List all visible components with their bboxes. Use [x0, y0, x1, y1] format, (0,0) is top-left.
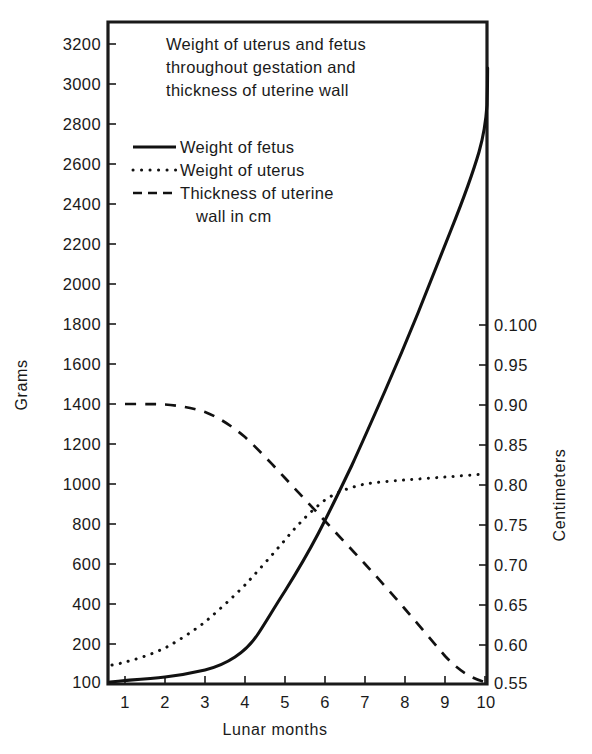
legend-label-fetus: Weight of fetus [180, 138, 294, 156]
left-tick-label: 200 [72, 635, 101, 653]
legend-label-uterus: Weight of uterus [180, 161, 305, 179]
series-line-uterine-wall-thickness [125, 404, 485, 682]
x-tick-label: 7 [360, 693, 370, 711]
left-tick-label: 2000 [63, 275, 101, 293]
x-tick-label: 4 [240, 693, 250, 711]
x-tick-label: 6 [320, 693, 330, 711]
right-tick-label: 0.75 [494, 516, 528, 534]
left-tick-label: 600 [72, 555, 101, 573]
left-tick-label: 2200 [63, 235, 101, 253]
right-axis-ticklabels: 0.100 0.95 0.90 0.85 0.80 0.75 0.70 0.65… [494, 316, 537, 692]
left-tick-label: 100 [72, 673, 101, 691]
left-tick-label: 1200 [63, 435, 101, 453]
x-tick-label: 3 [200, 693, 210, 711]
left-tick-label: 3000 [63, 75, 101, 93]
chart-title-line: throughout gestation and [166, 58, 356, 76]
left-tick-label: 1800 [63, 315, 101, 333]
left-tick-label: 1000 [63, 475, 101, 493]
chart-title-line: thickness of uterine wall [166, 81, 349, 99]
left-tick-label: 2800 [63, 115, 101, 133]
x-tick-label: 1 [120, 693, 130, 711]
x-tick-label: 8 [400, 693, 410, 711]
right-tick-label: 0.70 [494, 556, 528, 574]
x-axis-ticklabels: 1 2 3 4 5 6 7 8 9 10 [120, 693, 495, 711]
left-tick-label: 800 [72, 515, 101, 533]
left-tick-label: 2600 [63, 155, 101, 173]
x-tick-label: 10 [476, 693, 495, 711]
right-tick-label: 0.100 [494, 316, 537, 334]
right-axis-title: Centimeters [551, 449, 568, 542]
x-tick-label: 9 [440, 693, 450, 711]
x-tick-label: 2 [160, 693, 170, 711]
chart-title: Weight of uterus and fetus throughout ge… [166, 35, 366, 99]
left-tick-label: 1400 [63, 395, 101, 413]
right-tick-label: 0.95 [494, 356, 528, 374]
left-axis-ticklabels: 3200 3000 2800 2600 2400 2200 2000 1800 … [63, 35, 101, 691]
left-tick-label: 3200 [63, 35, 101, 53]
legend-label-wall: Thickness of uterine [180, 184, 334, 202]
x-axis-title: Lunar months [222, 721, 327, 738]
chart-legend: Weight of fetus Weight of uterus Thickne… [133, 138, 334, 225]
legend-label-wall-cont: wall in cm [195, 207, 271, 225]
left-axis-title: Grams [13, 360, 30, 411]
left-tick-label: 1600 [63, 355, 101, 373]
x-tick-label: 5 [280, 693, 290, 711]
left-tick-label: 2400 [63, 195, 101, 213]
right-tick-label: 0.65 [494, 596, 528, 614]
left-tick-label: 400 [72, 595, 101, 613]
right-tick-label: 0.85 [494, 436, 528, 454]
chart-figure: 3200 3000 2800 2600 2400 2200 2000 1800 … [0, 0, 592, 754]
right-tick-label: 0.55 [494, 674, 528, 692]
chart-canvas: 3200 3000 2800 2600 2400 2200 2000 1800 … [0, 0, 592, 754]
right-tick-label: 0.80 [494, 476, 528, 494]
plot-frame [108, 22, 487, 684]
right-tick-label: 0.60 [494, 636, 528, 654]
chart-title-line: Weight of uterus and fetus [166, 35, 366, 53]
right-tick-label: 0.90 [494, 396, 528, 414]
